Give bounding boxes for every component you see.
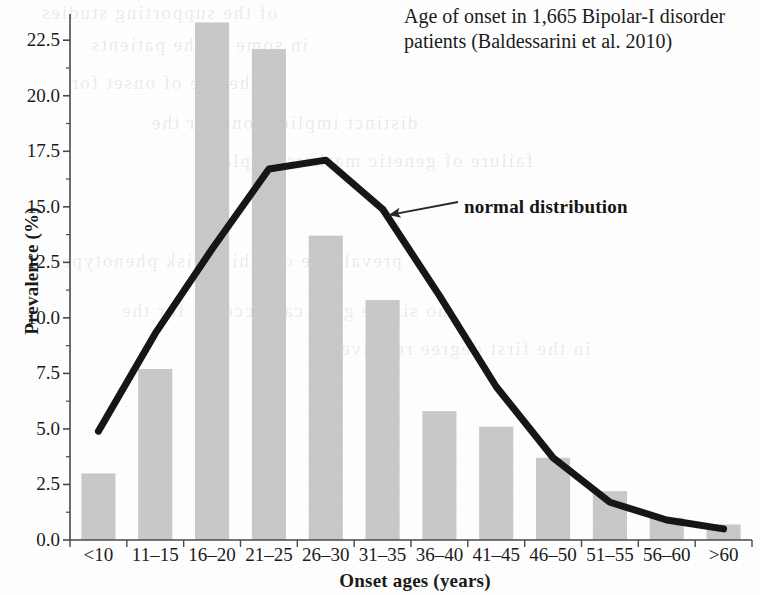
bar <box>195 22 229 540</box>
x-tick-label: 56–60 <box>638 545 695 565</box>
y-tick-label: 12.5 <box>4 252 60 271</box>
bar <box>309 236 343 540</box>
bars-group <box>81 22 740 540</box>
bar <box>252 49 286 540</box>
x-tick-label: <10 <box>70 545 127 565</box>
x-tick-label: 26–30 <box>297 545 354 565</box>
normal-distribution-annotation-label: normal distribution <box>464 196 628 218</box>
y-tick-label: 17.5 <box>4 141 60 160</box>
normal-distribution-curve <box>98 160 723 529</box>
y-tick-label: 22.5 <box>4 30 60 49</box>
plot-area <box>0 0 760 595</box>
x-tick-label: 36–40 <box>411 545 468 565</box>
annotation-arrow <box>389 202 458 218</box>
bar <box>422 411 456 540</box>
y-tick-label: 15.0 <box>4 197 60 216</box>
x-tick-label: 31–35 <box>354 545 411 565</box>
x-tick-label: 11–15 <box>127 545 184 565</box>
bar-chart-figure: Age of onset in 1,665 Bipolar-I disorder… <box>0 0 760 595</box>
bar <box>366 300 400 540</box>
y-tick-label: 20.0 <box>4 86 60 105</box>
x-tick-label: 21–25 <box>241 545 298 565</box>
y-tick-label: 0.0 <box>4 530 60 549</box>
bar <box>81 473 115 540</box>
y-tick-label: 2.5 <box>4 474 60 493</box>
x-tick-label: 41–45 <box>468 545 525 565</box>
x-tick-label: 16–20 <box>184 545 241 565</box>
y-tick-label: 10.0 <box>4 308 60 327</box>
y-tick-label: 5.0 <box>4 419 60 438</box>
y-tick-label: 7.5 <box>4 363 60 382</box>
bar <box>479 427 513 540</box>
bar <box>138 369 172 540</box>
normal-distribution-line <box>98 160 723 529</box>
x-tick-label: 51–55 <box>582 545 639 565</box>
x-tick-label: 46–50 <box>525 545 582 565</box>
x-tick-label: >60 <box>695 545 752 565</box>
